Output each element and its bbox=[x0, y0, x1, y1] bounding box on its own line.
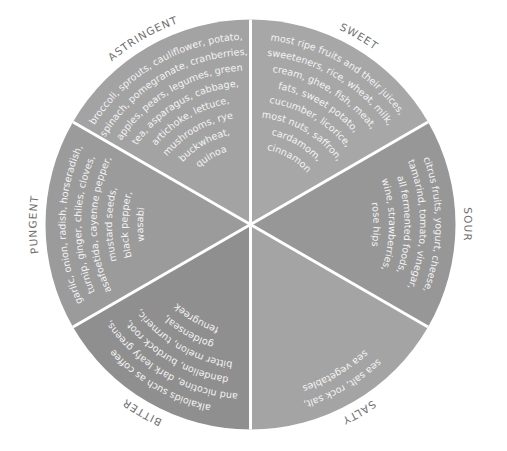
segment-label-pungent: PUNGENT bbox=[26, 194, 40, 254]
segment-label-sour: SOUR bbox=[462, 207, 475, 242]
food-line: wasabi bbox=[134, 207, 146, 243]
six-tastes-wheel: most ripe fruits and their juices,sweete… bbox=[0, 0, 507, 451]
food-line: rose hips bbox=[370, 201, 383, 247]
